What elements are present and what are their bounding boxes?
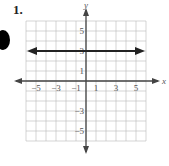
y-axis-label: y <box>83 0 88 10</box>
coordinate-plane: x y −5−3−1135531−3−5 <box>0 0 169 166</box>
x-tick-label: 1 <box>94 83 99 93</box>
x-axis-label: x <box>161 76 166 86</box>
arrow-left-icon <box>27 47 37 55</box>
x-tick-label: 5 <box>134 83 139 93</box>
y-tick-label: −5 <box>74 126 84 136</box>
y-tick-label: 1 <box>80 66 85 76</box>
x-tick-label: −1 <box>71 83 81 93</box>
y-tick-label: 5 <box>80 26 85 36</box>
y-tick-label: −3 <box>74 106 84 116</box>
arrow-right-icon <box>135 47 145 55</box>
x-tick-label: −5 <box>31 83 41 93</box>
x-tick-label: 3 <box>114 83 119 93</box>
x-tick-label: −3 <box>51 83 61 93</box>
